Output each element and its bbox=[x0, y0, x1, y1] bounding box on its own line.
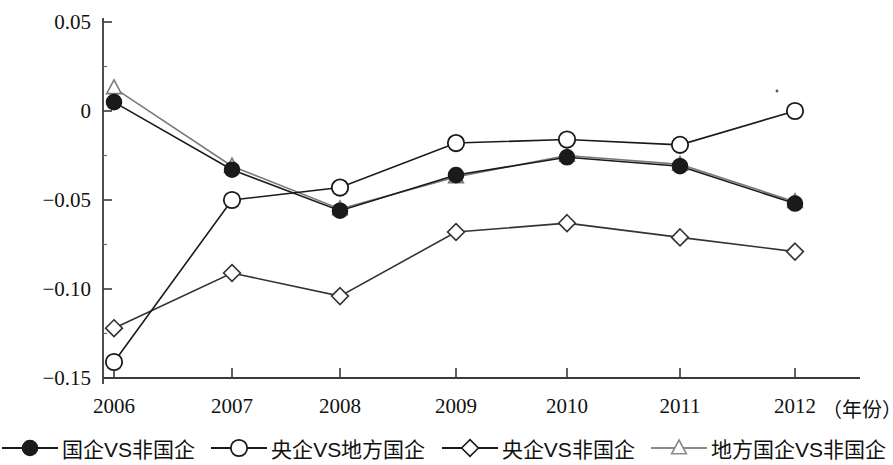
x-axis-tick-label-0: 2006 bbox=[93, 394, 135, 419]
legend-item-0[interactable]: 国企VS非国企 bbox=[2, 433, 195, 463]
data-point-marker bbox=[787, 196, 802, 211]
series-markers-2 bbox=[106, 215, 804, 337]
legend-item-label: 地方国企VS非国企 bbox=[711, 433, 886, 463]
legend-marker-open-diamond-icon bbox=[442, 438, 498, 458]
x-axis-tick-label-3: 2009 bbox=[435, 394, 477, 419]
legend-item-label: 国企VS非国企 bbox=[62, 433, 195, 463]
data-point-marker bbox=[672, 137, 688, 153]
data-point-marker bbox=[224, 265, 241, 282]
data-point-marker bbox=[787, 243, 804, 260]
x-axis-tick-label-4: 2010 bbox=[546, 394, 588, 419]
data-point-marker bbox=[22, 440, 37, 455]
data-point-marker bbox=[332, 288, 349, 305]
chart-plot-area bbox=[0, 0, 888, 430]
data-point-marker bbox=[672, 440, 687, 454]
data-point-marker bbox=[107, 80, 122, 94]
legend-item-label: 央企VS非国企 bbox=[502, 433, 635, 463]
data-point-marker bbox=[461, 440, 478, 457]
legend-item-label: 央企VS地方国企 bbox=[271, 433, 425, 463]
legend-marker-filled-circle-icon bbox=[2, 438, 58, 458]
y-axis-tick-label-2: −0.05 bbox=[0, 188, 91, 213]
data-point-marker bbox=[559, 131, 575, 147]
series-markers-0 bbox=[106, 95, 802, 219]
data-point-marker bbox=[106, 354, 122, 370]
chart-legend: 国企VS非国企央企VS地方国企央企VS非国企地方国企VS非国企 bbox=[0, 431, 888, 465]
legend-marker-open-circle-icon bbox=[211, 438, 267, 458]
y-axis-tick-label-0: 0.05 bbox=[0, 10, 91, 35]
stray-dot-artifact bbox=[776, 90, 779, 93]
y-axis-tick-label-1: 0 bbox=[0, 99, 91, 124]
data-point-marker bbox=[224, 192, 240, 208]
legend-item-2[interactable]: 央企VS非国企 bbox=[442, 433, 635, 463]
legend-item-1[interactable]: 央企VS地方国企 bbox=[211, 433, 425, 463]
x-axis-unit-label: （年份） bbox=[822, 394, 893, 423]
data-point-marker bbox=[448, 224, 465, 241]
stray-dot-icon bbox=[776, 90, 779, 93]
data-point-marker bbox=[672, 159, 687, 174]
data-point-marker bbox=[332, 179, 348, 195]
data-point-marker bbox=[231, 440, 247, 456]
data-point-marker bbox=[224, 162, 239, 177]
data-point-marker bbox=[672, 229, 689, 246]
legend-item-3[interactable]: 地方国企VS非国企 bbox=[651, 433, 886, 463]
data-point-marker bbox=[559, 215, 576, 232]
y-axis-tick-label-4: −0.15 bbox=[0, 366, 91, 391]
legend-marker-open-triangle-icon bbox=[651, 438, 707, 458]
axis-group bbox=[103, 18, 860, 384]
x-axis-tick-label-6: 2012 bbox=[774, 394, 816, 419]
series-group bbox=[106, 80, 804, 370]
data-point-marker bbox=[106, 95, 121, 110]
data-point-marker bbox=[448, 135, 464, 151]
data-point-marker bbox=[106, 320, 123, 337]
data-point-marker bbox=[332, 203, 347, 218]
x-axis-tick-label-5: 2011 bbox=[659, 394, 700, 419]
data-point-marker bbox=[448, 167, 463, 182]
y-axis-tick-label-3: −0.10 bbox=[0, 277, 91, 302]
data-point-marker bbox=[787, 103, 803, 119]
data-point-marker bbox=[559, 150, 574, 165]
x-axis-tick-label-2: 2008 bbox=[319, 394, 361, 419]
x-axis-tick-label-1: 2007 bbox=[211, 394, 253, 419]
